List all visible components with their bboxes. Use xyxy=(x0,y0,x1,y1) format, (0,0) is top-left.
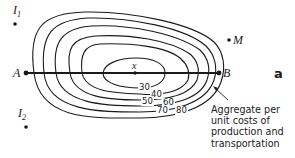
annotation-leader xyxy=(215,88,228,100)
contour-label-70: 70 xyxy=(156,106,169,115)
annotation-text: Aggregate per unit costs of production a… xyxy=(211,104,284,149)
contour-label-50: 50 xyxy=(141,97,154,106)
annotation-line-1: Aggregate per xyxy=(211,104,284,115)
label-i1: I1 xyxy=(13,4,21,19)
contour-label-30: 30 xyxy=(138,83,151,92)
label-m: M xyxy=(233,34,243,46)
panel-label: a xyxy=(274,67,283,80)
annotation-line-2: unit costs of xyxy=(211,115,284,126)
point-x-dot xyxy=(133,71,137,75)
annotation-line-3: production and xyxy=(211,126,284,137)
point-b-dot xyxy=(217,71,222,76)
label-a: A xyxy=(13,67,20,79)
label-i2: I2 xyxy=(18,107,26,122)
point-i1-dot xyxy=(13,22,17,26)
contour-label-80: 80 xyxy=(175,106,188,115)
annotation-line-4: transportation xyxy=(211,138,284,149)
point-a-dot xyxy=(24,71,29,76)
point-i2-dot xyxy=(24,125,28,129)
label-x: x xyxy=(132,61,136,71)
label-b: B xyxy=(223,67,230,79)
point-m-dot xyxy=(227,38,231,42)
contour-80 xyxy=(33,12,224,118)
